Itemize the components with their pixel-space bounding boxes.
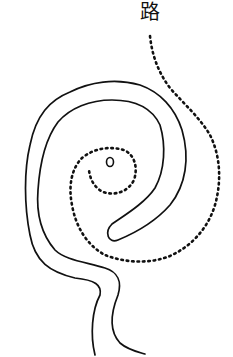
dotted-trail [70, 36, 219, 262]
outer-wall [26, 81, 187, 355]
center-circle-icon [107, 158, 114, 167]
spiral-drawing [0, 0, 233, 357]
